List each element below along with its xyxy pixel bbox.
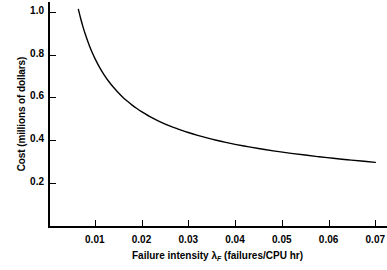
cost-vs-failure-intensity-chart: Cost (millions of dollars) 0.20.40.60.81…	[0, 0, 387, 270]
y-tick-label: 0.6	[30, 90, 44, 101]
y-tick-label: 0.8	[30, 48, 44, 59]
x-tick-label: 0.05	[272, 234, 291, 245]
x-tick-label: 0.07	[366, 234, 385, 245]
y-tick-label: 0.4	[30, 133, 44, 144]
x-tick-label: 0.06	[319, 234, 338, 245]
y-tick-label: 0.2	[30, 176, 44, 187]
x-tick-label: 0.02	[132, 234, 151, 245]
x-tick-label: 0.01	[85, 234, 104, 245]
y-tick-label: 1.0	[30, 5, 44, 16]
plot-area: 0.20.40.60.81.0 0.010.020.030.040.050.06…	[48, 2, 387, 228]
x-axis-label-main: Failure intensity λ	[132, 250, 217, 261]
x-tick-label: 0.04	[225, 234, 244, 245]
y-axis-label: Cost (millions of dollars)	[14, 0, 28, 228]
cost-curve	[78, 10, 375, 163]
curve-svg	[48, 2, 387, 228]
x-tick-label: 0.03	[179, 234, 198, 245]
x-axis-label-tail: (failures/CPU hr)	[221, 250, 303, 261]
x-axis-label: Failure intensity λF (failures/CPU hr)	[48, 250, 387, 262]
